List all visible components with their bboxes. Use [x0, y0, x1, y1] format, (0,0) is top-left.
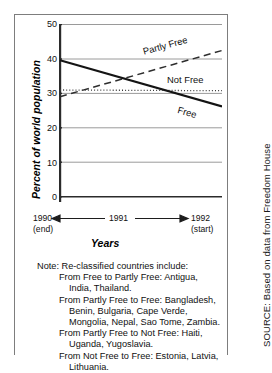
note-line-7: Uganda, Yugoslavia.	[37, 339, 237, 350]
y-tick-50: 50	[31, 20, 57, 29]
y-axis-tick-labels: 50 40 30 20 10 0	[27, 15, 57, 211]
plot-area: Partly Free Not Free Free	[59, 24, 222, 211]
x-tick-1992: 1992	[191, 213, 210, 223]
note-line-1: From Free to Partly Free: Antigua,	[37, 272, 237, 283]
y-tick-40: 40	[31, 55, 57, 64]
axis-lines	[59, 24, 222, 202]
x-tick-1992-note: (start)	[191, 224, 213, 234]
source-note: SOURCE: Based on data from Freedom House	[247, 0, 267, 355]
note-line-4: Benin, Bulgaria, Cape Verde,	[37, 306, 237, 317]
series-label-not-free: Not Free	[167, 74, 203, 85]
figure-frame: Percent of world population 50 40 30 20 …	[14, 14, 228, 355]
note-line-2: India, Thailand.	[37, 283, 237, 294]
chart-svg	[59, 24, 222, 216]
gridlines	[59, 25, 222, 163]
note-line-5: Mongolia, Nepal, Sao Tome, Zambia.	[37, 317, 237, 328]
note-block: Note: Re-classified countries include: F…	[37, 261, 237, 373]
y-tick-0: 0	[31, 193, 57, 202]
x-tick-1990-note: (end)	[33, 224, 53, 234]
y-tick-20: 20	[31, 124, 57, 133]
x-tick-1991: 1991	[109, 213, 128, 223]
note-heading-text: Note: Re-classified countries include:	[37, 261, 188, 271]
note-line-6: From Partly Free to Not Free: Haiti,	[37, 328, 237, 339]
note-line-9: Lithuania.	[37, 362, 237, 373]
y-tick-30: 30	[31, 89, 57, 98]
note-line-3: From Partly Free to Free: Bangladesh,	[37, 295, 237, 306]
x-axis: 1990 (end) 1991 1992 (start) Years	[31, 213, 227, 253]
x-tick-1990: 1990	[33, 213, 52, 223]
x-axis-title: Years	[91, 237, 119, 249]
note-heading: Note: Re-classified countries include:	[37, 261, 237, 272]
y-tick-10: 10	[31, 159, 57, 168]
note-line-8: From Not Free to Free: Estonia, Latvia,	[37, 351, 237, 362]
source-note-text: SOURCE: Based on data from Freedom House	[261, 143, 272, 347]
